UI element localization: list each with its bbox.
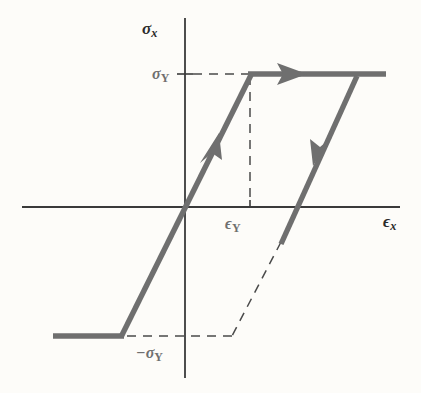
yield-stress-symbol: σ	[152, 65, 161, 82]
y-axis-label-subscript: x	[151, 26, 157, 40]
negative-yield-stress-label: −σY	[136, 345, 163, 363]
yield-strain-symbol: ϵ	[225, 215, 232, 232]
yield-strain-label: ϵY	[225, 216, 241, 234]
yield-stress-subscript: Y	[161, 71, 170, 85]
negative-yield-stress-subscript: Y	[154, 350, 163, 364]
elastic-loading-segment	[121, 75, 251, 337]
unloading-continuation-dashed	[232, 242, 281, 336]
y-axis-label: σx	[142, 20, 157, 40]
yield-stress-label: σY	[152, 66, 169, 84]
arrowheads-group	[200, 63, 332, 166]
x-axis-label: ϵx	[383, 213, 396, 233]
negative-yield-stress-prefix: −	[136, 344, 146, 361]
yield-strain-subscript: Y	[232, 221, 241, 235]
x-axis-label-subscript: x	[390, 219, 396, 233]
hysteresis-figure: σx ϵx σY ϵY −σY	[0, 0, 421, 393]
stress-strain-diagram	[0, 0, 421, 393]
hysteresis-curve-group	[53, 74, 386, 337]
elastic-unloading-segment	[281, 76, 357, 244]
y-axis-label-symbol: σ	[142, 19, 151, 38]
guide-lines-group	[120, 74, 281, 336]
